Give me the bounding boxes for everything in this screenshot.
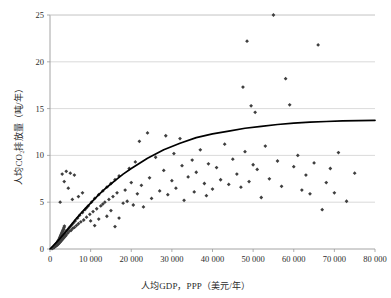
scatter-point (115, 191, 119, 195)
scatter-point (154, 155, 158, 159)
scatter-point (113, 225, 117, 229)
scatter-point (186, 175, 190, 179)
scatter-point (223, 142, 227, 146)
scatter-point (312, 161, 316, 165)
x-tick-label: 10 000 (79, 254, 102, 264)
scatter-point (182, 198, 186, 202)
scatter-point (162, 168, 166, 172)
scatter-point (247, 180, 251, 184)
scatter-point (89, 219, 93, 223)
scatter-point (245, 39, 249, 43)
y-tick-label: 15 (36, 104, 45, 114)
scatter-point (192, 190, 196, 194)
scatter-point (198, 148, 202, 152)
scatter-point (158, 189, 162, 193)
scatter-point (150, 197, 154, 201)
scatter-point (58, 200, 62, 204)
scatter-point (62, 180, 66, 184)
y-tick-label: 20 (36, 57, 45, 67)
scatter-point (249, 104, 253, 108)
scatter-point (107, 197, 111, 201)
y-tick-labels: 0510152025 (36, 10, 51, 254)
scatter-point (117, 216, 121, 220)
scatter-point (146, 131, 150, 135)
scatter-point (174, 186, 178, 190)
scatter-point (95, 207, 99, 211)
x-tick-label: 60 000 (282, 254, 305, 264)
scatter-point (284, 77, 288, 81)
scatter-point (70, 197, 74, 201)
scatter-point (140, 183, 144, 187)
trend-line (50, 120, 375, 249)
x-tick-labels: 010 00020 00030 00040 00050 00060 00070 … (48, 249, 387, 264)
scatter-point (166, 193, 170, 197)
scatter-point (332, 191, 336, 195)
scatter-point (88, 212, 92, 216)
scatter-point (91, 210, 95, 214)
scatter-point (320, 208, 324, 212)
scatter-point (288, 103, 292, 107)
scatter-point (251, 163, 255, 167)
scatter-point (316, 43, 320, 47)
scatter-point (267, 177, 271, 181)
scatter-point (231, 157, 235, 161)
scatter-point (255, 168, 259, 172)
scatter-point (178, 137, 182, 141)
scatter-point (219, 178, 223, 182)
scatter-point (131, 203, 135, 207)
x-tick-label: 70 000 (323, 254, 346, 264)
axis-frame (50, 15, 375, 249)
scatter-point (72, 173, 76, 177)
scatter-point (148, 176, 152, 180)
y-tick-label: 0 (40, 244, 44, 254)
scatter-point (253, 110, 257, 114)
scatter-point (337, 151, 341, 155)
scatter-point (328, 167, 332, 171)
scatter-point (259, 196, 263, 200)
scatter-point (133, 160, 137, 164)
scatter-point (93, 224, 97, 228)
scatter-points (50, 13, 356, 250)
scatter-point (211, 187, 215, 191)
scatter-point (180, 164, 184, 168)
x-tick-label: 30 000 (160, 254, 183, 264)
scatter-point (64, 169, 68, 173)
scatter-point (353, 171, 357, 175)
y-axis-title: 人均CO₂排放量（吨/年） (12, 65, 25, 205)
scatter-point (205, 194, 209, 198)
scatter-point (207, 162, 211, 166)
scatter-point (304, 173, 308, 177)
scatter-point (324, 181, 328, 185)
scatter-point (137, 139, 141, 143)
scatter-point (300, 188, 304, 192)
y-tick-label: 10 (36, 150, 45, 160)
scatter-point (77, 195, 81, 199)
scatter-point (97, 217, 101, 221)
scatter-point (123, 188, 127, 192)
plot-area: 010 00020 00030 00040 00050 00060 00070 … (0, 0, 391, 298)
scatter-point (85, 215, 89, 219)
scatter-point (227, 183, 231, 187)
scatter-point (60, 172, 64, 176)
x-tick-label: 40 000 (201, 254, 224, 264)
x-tick-label: 80 000 (363, 254, 386, 264)
scatter-point (280, 184, 284, 188)
scatter-point (243, 150, 247, 154)
scatter-point (109, 209, 113, 213)
scatter-point (135, 192, 139, 196)
scatter-point (296, 154, 300, 158)
x-tick-label: 20 000 (120, 254, 143, 264)
scatter-point (111, 195, 115, 199)
scatter-point (172, 152, 176, 156)
scatter-point (170, 179, 174, 183)
scatter-point (215, 166, 219, 170)
scatter-point (263, 144, 267, 148)
scatter-point (105, 214, 109, 218)
scatter-point (292, 165, 296, 169)
scatter-point (82, 218, 86, 222)
scatter-point (235, 172, 239, 176)
scatter-point (164, 134, 168, 138)
grid-lines (50, 15, 375, 202)
y-tick-label: 5 (40, 197, 44, 207)
y-tick-label: 25 (36, 10, 45, 20)
